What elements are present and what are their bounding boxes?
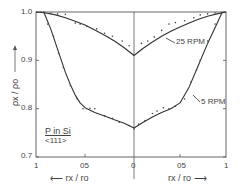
sample-name: P in Si <box>45 126 71 136</box>
y-tick-0.7: 0.7 <box>21 152 32 160</box>
x-axis-title-left-text: rx / ro <box>66 173 89 183</box>
x-axis-title-right-text: rx / ro <box>168 173 191 183</box>
x-tick-0: 0 <box>131 162 135 170</box>
label-leaders <box>166 38 200 102</box>
sample-annotation: P in Si <111> <box>45 126 71 146</box>
series-points <box>40 11 216 130</box>
y-tick-0.9: 0.9 <box>21 56 32 64</box>
sample-orientation: <111> <box>45 136 71 145</box>
series-label-25rpm: 25 RPM <box>176 38 205 46</box>
x-tick-right-1: 1 <box>224 162 228 170</box>
y-axis-title: ρx / ρo <box>2 44 22 114</box>
x-axis-title-right: rx / ro ⟶ <box>168 174 207 183</box>
x-tick-left-0.5: 05 <box>80 162 89 170</box>
y-tick-0.8: 0.8 <box>21 104 32 112</box>
y-axis-arrow-icon: ρx / ρo <box>2 44 22 114</box>
right-arrow-icon: ⟶ <box>191 173 207 183</box>
x-tick-left-1: 1 <box>34 162 38 170</box>
series-label-5rpm: 5 RPM <box>201 98 225 106</box>
y-tick-1.0: 1.0 <box>21 8 32 16</box>
x-axis-title-left: ⟵ rx / ro <box>50 174 89 183</box>
svg-text:ρx / ρo: ρx / ρo <box>10 79 20 106</box>
left-arrow-icon: ⟵ <box>50 173 66 183</box>
series-curves <box>36 12 226 128</box>
x-tick-right-0.5: 05 <box>177 162 186 170</box>
